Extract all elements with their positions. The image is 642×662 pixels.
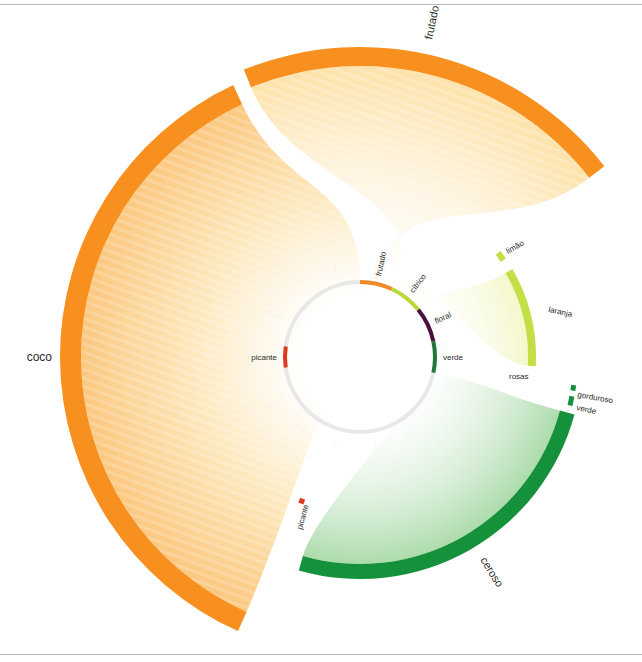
outer-label-limao: limão: [505, 238, 527, 256]
outer-label-frutado: frutado: [422, 4, 441, 40]
outer-label-verde: verde: [576, 403, 598, 416]
outer-label-picante: picante: [295, 503, 311, 531]
inner-label-floral: floral: [433, 310, 453, 326]
inner-segment-floral: [418, 310, 433, 342]
outer-arc-gorduroso: [570, 385, 576, 391]
outer-arc-limao: [496, 251, 506, 262]
inner-faint-label: ·····: [370, 440, 381, 455]
outer-label-ceroso: ceroso: [478, 555, 506, 589]
inner-segment-verde: [433, 341, 435, 372]
inner-segment-picante: [285, 347, 286, 368]
outer-arc-verde: [568, 396, 575, 406]
outer-label-rosas: rosas: [509, 372, 529, 381]
inner-faint-label: ····: [330, 438, 342, 451]
outer-label-coco: coco: [27, 350, 53, 364]
outer-label-laranja: laranja: [548, 305, 574, 319]
inner-label-picante: picante: [251, 353, 277, 362]
radial-flow-chart: cocofrutadocerosolaranjalimãogordurosove…: [0, 0, 642, 662]
inner-label-verde: verde: [443, 353, 464, 362]
outer-label-gorduroso: gorduroso: [577, 390, 615, 405]
